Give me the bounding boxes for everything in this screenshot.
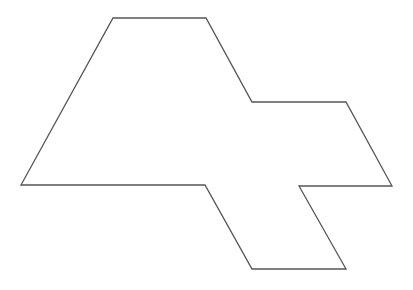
polygon-shape: [21, 18, 392, 269]
diagram-canvas: [0, 0, 413, 290]
polygon-diagram: [0, 0, 413, 290]
